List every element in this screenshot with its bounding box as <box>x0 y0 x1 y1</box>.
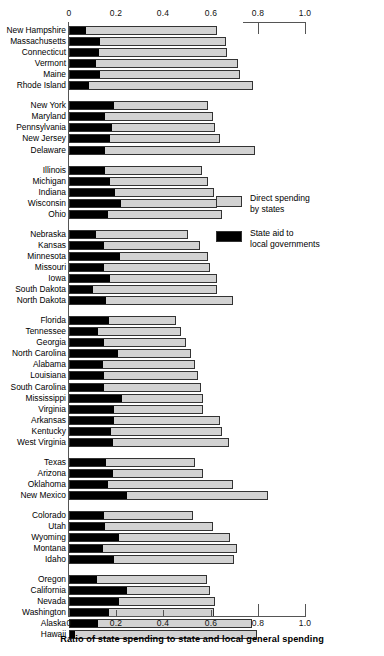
state-label: Florida <box>0 315 66 326</box>
state-aid-segment <box>70 113 105 120</box>
x-tick-bottom-0.2 <box>116 610 117 616</box>
state-aid-segment <box>70 372 104 379</box>
state-row: Kansas <box>0 240 384 251</box>
x-tick-label-top-0.4: 0.4 <box>143 8 183 18</box>
state-row: Indiana <box>0 187 384 198</box>
state-label: Wisconsin <box>0 198 66 209</box>
total-spending-bar <box>69 438 229 447</box>
total-spending-bar <box>69 586 210 595</box>
state-row: Utah <box>0 521 384 532</box>
state-label: New Mexico <box>0 490 66 501</box>
top-axis-rule <box>243 22 306 23</box>
x-tick-bottom-0 <box>69 610 70 616</box>
state-aid-segment <box>70 339 104 346</box>
state-row: Louisiana <box>0 370 384 381</box>
total-spending-bar <box>69 511 193 520</box>
state-row: West Virginia <box>0 437 384 448</box>
state-aid-segment <box>70 27 86 34</box>
state-label: Vermont <box>0 58 66 69</box>
state-row: Missouri <box>0 262 384 273</box>
total-spending-bar <box>69 188 214 197</box>
state-label: Colorado <box>0 510 66 521</box>
state-label: New Hampshire <box>0 25 66 36</box>
total-spending-bar <box>69 458 195 467</box>
state-aid-segment <box>70 587 127 594</box>
x-tick-bottom-0.4 <box>163 610 164 616</box>
state-row: Kentucky <box>0 426 384 437</box>
state-row: North Carolina <box>0 348 384 359</box>
state-aid-segment <box>70 598 119 605</box>
state-row: Maine <box>0 69 384 80</box>
total-spending-bar <box>69 427 222 436</box>
state-aid-segment <box>70 328 98 335</box>
state-label: Connecticut <box>0 47 66 58</box>
state-aid-segment <box>70 167 105 174</box>
state-label: California <box>0 585 66 596</box>
state-aid-segment <box>70 71 100 78</box>
state-aid-segment <box>70 178 110 185</box>
direct-spending-label-line2: by states <box>250 204 284 215</box>
state-row: California <box>0 585 384 596</box>
state-aid-segment <box>70 38 100 45</box>
state-row: Pennsylvania <box>0 122 384 133</box>
total-spending-bar <box>69 134 220 143</box>
state-row: Delaware <box>0 145 384 156</box>
total-spending-bar <box>69 327 181 336</box>
state-row: Wyoming <box>0 532 384 543</box>
total-spending-bar <box>69 522 213 531</box>
state-row: South Carolina <box>0 382 384 393</box>
total-spending-bar <box>69 394 203 403</box>
state-row: Arkansas <box>0 415 384 426</box>
state-row: New Mexico <box>0 490 384 501</box>
state-aid-segment <box>70 576 97 583</box>
state-label: North Carolina <box>0 348 66 359</box>
state-aid-segment <box>70 49 99 56</box>
x-tick-label-bottom-0.2: 0.2 <box>96 618 136 628</box>
total-spending-bar <box>69 274 217 283</box>
state-aid-segment <box>70 439 113 446</box>
total-spending-bar <box>69 263 210 272</box>
total-spending-bar <box>69 241 200 250</box>
x-tick-label-bottom-1.0: 1.0 <box>285 618 325 628</box>
total-spending-bar <box>69 296 233 305</box>
x-tick-label-bottom-0.4: 0.4 <box>143 618 183 628</box>
state-label: Georgia <box>0 337 66 348</box>
total-spending-bar <box>69 383 201 392</box>
state-row: Mississippi <box>0 393 384 404</box>
state-label: Wyoming <box>0 532 66 543</box>
total-spending-bar <box>69 112 213 121</box>
state-label: Washington <box>0 607 66 618</box>
x-axis-title: Ratio of state spending to state and loc… <box>0 634 384 644</box>
state-label: North Dakota <box>0 295 66 306</box>
state-label: Virginia <box>0 404 66 415</box>
state-aid-segment <box>70 545 103 552</box>
state-label: Pennsylvania <box>0 122 66 133</box>
x-tick-bottom-1.0 <box>305 604 306 616</box>
x-tick-bottom-0.6 <box>211 610 212 616</box>
state-label: Oregon <box>0 574 66 585</box>
state-aid-segment <box>70 459 106 466</box>
state-aid-segment <box>70 211 108 218</box>
state-row: Massachusetts <box>0 36 384 47</box>
total-spending-bar <box>69 371 198 380</box>
state-row: Michigan <box>0 176 384 187</box>
state-label: South Dakota <box>0 284 66 295</box>
x-tick-label-top-0.6: 0.6 <box>191 8 231 18</box>
state-row: Wisconsin <box>0 198 384 209</box>
x-tick-label-bottom-0.6: 0.6 <box>191 618 231 628</box>
state-aid-segment <box>70 135 110 142</box>
direct-spending-swatch <box>216 196 242 207</box>
state-row: Iowa <box>0 273 384 284</box>
state-aid-segment <box>70 361 103 368</box>
x-tick-label-top-0: 0 <box>49 8 89 18</box>
state-aid-label-line2: local governments <box>250 239 320 250</box>
state-aid-segment <box>70 395 122 402</box>
state-row: Connecticut <box>0 47 384 58</box>
total-spending-bar <box>69 70 240 79</box>
total-spending-bar <box>69 575 207 584</box>
direct-spending-label-line1: Direct spending <box>250 193 310 204</box>
state-aid-segment <box>70 82 89 89</box>
state-aid-segment <box>70 297 106 304</box>
state-row: Florida <box>0 315 384 326</box>
total-spending-bar <box>69 533 230 542</box>
